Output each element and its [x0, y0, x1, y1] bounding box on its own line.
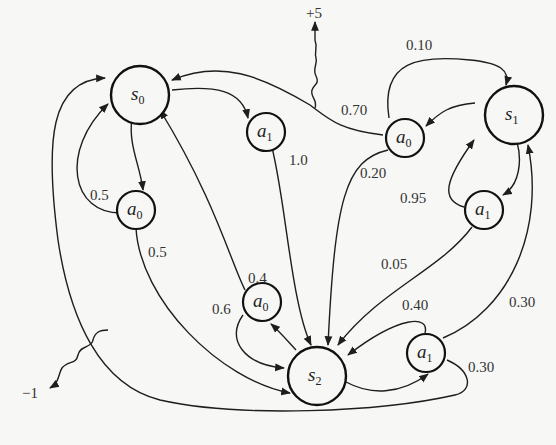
edge-s1a1-to-s2 [338, 227, 472, 345]
prob-s1a0-s2: 0.20 [360, 165, 386, 181]
prob-s1a0-s0: 0.70 [341, 102, 367, 118]
action-s2-a0: a0 [243, 283, 281, 321]
edge-s1-to-a0 [426, 103, 475, 126]
prob-s0a1-s2: 1.0 [289, 152, 308, 168]
edge-s2-to-a0 [271, 324, 296, 350]
edge-s2-to-a1 [346, 374, 428, 391]
reward-minus-label: −1 [22, 385, 38, 401]
prob-s1a1-s2: 0.05 [381, 256, 407, 272]
edge-s0-to-a1 [172, 88, 248, 118]
edge-s0-to-a0 [131, 118, 143, 190]
prob-s0a0-s0: 0.5 [90, 187, 109, 203]
prob-s1a1-s1: 0.95 [400, 190, 426, 206]
prob-s2a1-s1: 0.30 [509, 294, 535, 310]
action-s0-a1: a1 [247, 113, 285, 151]
prob-s2a1-s2: 0.40 [402, 297, 428, 313]
action-s1-a1: a1 [465, 191, 503, 229]
state-s1: s1 [485, 86, 543, 144]
state-s0: s0 [111, 66, 169, 124]
state-s2: s2 [288, 347, 346, 405]
edge-s1-to-a1 [503, 142, 519, 195]
prob-s2a1-s0: 0.30 [468, 359, 494, 375]
prob-s0a0-s2: 0.5 [148, 244, 167, 260]
prob-s2a0-s2: 0.6 [212, 301, 231, 317]
action-s2-a1: a1 [407, 334, 445, 372]
edge-s2a0-to-s0 [160, 110, 245, 290]
action-s1-a0: a0 [386, 119, 424, 157]
edge-s2a0-to-s2 [236, 315, 284, 368]
prob-s1a0-s1: 0.10 [406, 37, 432, 53]
prob-s2a0-s0: 0.4 [248, 270, 267, 286]
mdp-diagram: s0 s1 s2 a0 a1 a0 a1 a0 a1 0.5 0.5 1.0 0… [0, 0, 556, 445]
reward-plus-label: +5 [306, 5, 322, 21]
reward-plus-squiggle [312, 22, 318, 108]
action-s0-a0: a0 [117, 191, 155, 229]
reward-minus-squiggle [50, 330, 108, 388]
